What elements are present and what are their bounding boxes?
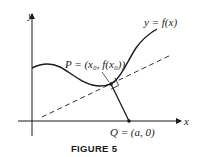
figure-canvas: y x y = f(x) P = (x₀, f(x₀)) Q = (a, 0) … [0, 0, 198, 157]
point-q-label: Q = (a, 0) [110, 126, 155, 139]
point-q [127, 119, 131, 123]
curve-label: y = f(x) [143, 16, 177, 29]
y-axis-label: y [27, 9, 33, 21]
x-axis-label: x [183, 115, 189, 127]
point-p-label: P = (x₀, f(x₀)) [64, 58, 125, 71]
normal-segment [111, 84, 129, 121]
p-leader-line [102, 72, 109, 82]
point-p [109, 82, 113, 86]
figure-caption: FIGURE 5 [71, 143, 118, 154]
